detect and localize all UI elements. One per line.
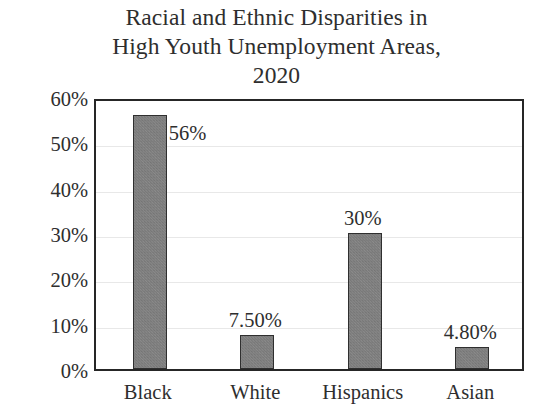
- bar-value-label: 56%: [169, 123, 207, 144]
- y-axis: 0%10%20%30%40%50%60%: [0, 99, 88, 371]
- bar-value-label: 30%: [303, 208, 423, 229]
- bar: [240, 335, 274, 369]
- chart-title-line-2: High Youth Unemployment Areas,: [0, 32, 553, 61]
- bar-value-label: 7.50%: [195, 310, 315, 331]
- x-axis-label: White: [195, 381, 315, 403]
- y-tick-label: 20%: [4, 270, 88, 291]
- y-tick-label: 60%: [4, 89, 88, 110]
- x-axis-label: Asian: [410, 381, 530, 403]
- bar: [133, 115, 167, 369]
- bar-chart: Racial and Ethnic Disparities in High Yo…: [0, 0, 553, 417]
- bar: [348, 233, 382, 369]
- chart-title-line-1: Racial and Ethnic Disparities in: [0, 3, 553, 32]
- x-axis-label: Hispanics: [303, 381, 423, 403]
- y-tick-label: 50%: [4, 134, 88, 155]
- y-tick-label: 0%: [4, 361, 88, 382]
- chart-title: Racial and Ethnic Disparities in High Yo…: [0, 3, 553, 90]
- x-axis-label: Black: [88, 381, 208, 403]
- chart-title-line-3: 2020: [0, 61, 553, 90]
- y-tick-label: 40%: [4, 180, 88, 201]
- bar-value-label: 4.80%: [410, 322, 530, 343]
- y-tick-label: 10%: [4, 316, 88, 337]
- y-tick-label: 30%: [4, 225, 88, 246]
- bar: [455, 347, 489, 369]
